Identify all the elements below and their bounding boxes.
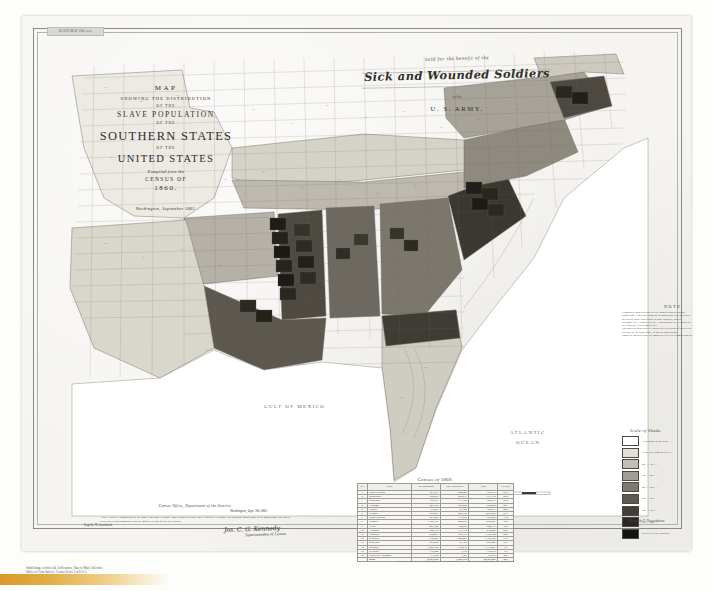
legend-swatch — [622, 482, 639, 492]
col-slave: Slave population — [440, 484, 469, 491]
title-place: Washington, September 1861. — [82, 206, 250, 211]
note-block: NOTE. It should be observed that several… — [622, 304, 713, 337]
screenshot-root: SLAVE MAP 1861 sec. — [0, 0, 713, 591]
title-block: MAP SHOWING THE DISTRIBUTION OF THE SLAV… — [82, 84, 250, 211]
survey-credit: Drawn by Henry S. Graham from the U.S. C… — [336, 560, 576, 563]
legend-label: 40 " " 50 " " — [642, 486, 657, 489]
svg-text:CO.: CO. — [364, 116, 368, 118]
title-year: 1860. — [82, 184, 250, 192]
svg-text:CO.: CO. — [262, 170, 266, 172]
archive-credit: Smith Image Archives & Art Resource, Rar… — [26, 566, 102, 574]
legend-swatch — [622, 448, 639, 458]
map-atlantic-label-2: OCEAN — [516, 440, 540, 445]
svg-text:CO.: CO. — [478, 118, 482, 120]
census-office-line: Census Office, Department of the Interio… — [100, 504, 290, 508]
col-state: States — [367, 484, 412, 491]
legend-row: 90 per cent & upwards — [622, 529, 713, 539]
svg-text:CO.: CO. — [400, 396, 404, 398]
note-body: It should be observed that several count… — [622, 311, 713, 337]
title-of-1: OF THE — [82, 104, 250, 108]
svg-text:CO.: CO. — [452, 200, 456, 202]
title-of-3: OF THE — [82, 146, 250, 150]
note-line: figures of localities that are shown in … — [622, 334, 713, 337]
legend-row: Less than 10 per cent — [622, 436, 713, 446]
census-table-row: 2Mississippi354,699436,631791,33055.2 — [358, 495, 514, 499]
title-map: MAP — [82, 84, 250, 92]
svg-text:CO.: CO. — [180, 248, 184, 250]
legend-row: 40 " " 50 " " — [622, 482, 713, 492]
svg-text:CO.: CO. — [252, 108, 256, 110]
ornate-ribbon: Sick and Wounded Soldiers — [362, 65, 552, 91]
svg-text:CO.: CO. — [406, 288, 410, 290]
ornate-of-the: of the — [362, 94, 552, 99]
legend-row: 50 " " 60 " " — [622, 494, 713, 504]
note-heading: NOTE. — [622, 304, 713, 309]
certification-text: After a careful examination of the above… — [100, 516, 290, 523]
legend-label: Less than 10 per cent — [642, 440, 668, 443]
svg-text:CO.: CO. — [326, 104, 330, 106]
legend-scale-of-shade: Scale of Shade. Less than 10 per cent10 … — [622, 428, 713, 540]
legend-label: 60 " " 70 " " — [642, 509, 657, 512]
svg-text:CO.: CO. — [290, 122, 294, 124]
legend-swatch — [622, 459, 639, 469]
svg-text:CO.: CO. — [330, 280, 334, 282]
svg-text:CO.: CO. — [338, 178, 342, 180]
slide-accent-bar — [0, 574, 172, 585]
col-no: No. — [358, 484, 368, 491]
title-census: CENSUS OF — [82, 176, 250, 182]
legend-swatch — [622, 436, 639, 446]
ornate-header: Sold for the benefit of the Sick and Wou… — [362, 56, 552, 112]
sheet-corner-tag-label: SLAVE MAP 1861 sec. — [48, 28, 103, 35]
legend-row: 30 " " 40 " " — [622, 471, 713, 481]
col-free: Free population — [412, 484, 441, 491]
legend-swatch — [622, 471, 639, 481]
census-table: No. States Free population Slave populat… — [357, 483, 514, 562]
legend-row: 20 " " 30 " " — [622, 459, 713, 469]
title-showing: SHOWING THE DISTRIBUTION — [82, 96, 250, 101]
census-table-title: Census of 1860. — [357, 477, 514, 482]
svg-text:CO.: CO. — [424, 366, 428, 368]
svg-text:CO.: CO. — [414, 184, 418, 186]
title-southern: SOUTHERN STATES — [82, 129, 250, 144]
signature-block: Census Office, Department of the Interio… — [100, 504, 290, 539]
svg-text:CO.: CO. — [376, 192, 380, 194]
svg-text:CO.: CO. — [368, 272, 372, 274]
census-table-row: 16District of Columbia71,8953,18175,0764… — [358, 554, 514, 558]
legend-row: 10 & less than 20 per ct. — [622, 448, 713, 458]
legend-title: Scale of Shade. — [622, 428, 713, 433]
legend-swatch — [622, 506, 639, 516]
col-total: Total — [469, 484, 498, 491]
legend-swatch — [622, 494, 639, 504]
census-table-row: 7North Carolina661,586331,059992,64533.4 — [358, 516, 514, 520]
engraver-credit: Drawn by E. Hergesheimer. — [630, 519, 665, 523]
svg-text:CO.: CO. — [142, 256, 146, 258]
ornate-us-army: U. S. ARMY. — [362, 105, 552, 112]
svg-text:CO.: CO. — [104, 242, 108, 244]
litho-credit: Engd by Th. Leonhardt. — [84, 523, 112, 527]
census-table-row: 1South Carolina301,271402,406703,67757.2 — [358, 491, 514, 495]
map-gulf-label: GULF OF MEXICO — [264, 404, 325, 409]
legend-label: 10 & less than 20 per ct. — [642, 451, 672, 454]
census-table-block: Census of 1860. No. States Free populati… — [357, 477, 514, 562]
legend-label: 50 " " 60 " " — [642, 497, 657, 500]
census-date-line: Washington, Sept. 9th 1861. — [100, 509, 290, 513]
census-table-body: 1South Carolina301,271402,406703,67757.2… — [358, 491, 514, 562]
title-of-2: OF THE — [82, 121, 250, 125]
legend-rows: Less than 10 per cent10 & less than 20 p… — [622, 436, 713, 539]
svg-text:CO.: CO. — [256, 276, 260, 278]
map-sheet: SLAVE MAP 1861 sec. — [22, 16, 691, 551]
title-slave: SLAVE POPULATION — [82, 110, 250, 119]
sheet-corner-tag: SLAVE MAP 1861 sec. — [47, 27, 104, 36]
legend-label: 20 " " 30 " " — [642, 463, 657, 466]
map-atlantic-label: ATLANTIC — [510, 430, 546, 435]
svg-text:CO.: CO. — [440, 126, 444, 128]
svg-text:CO.: CO. — [218, 264, 222, 266]
census-table-header-row: No. States Free population Slave populat… — [358, 484, 514, 491]
legend-row: 60 " " 70 " " — [622, 506, 713, 516]
col-pct: Per cent — [498, 484, 514, 491]
title-compiled: Compiled from the — [82, 169, 250, 174]
svg-text:CO.: CO. — [554, 100, 558, 102]
legend-label: 90 per cent & upwards — [642, 532, 670, 535]
title-united: UNITED STATES — [82, 153, 250, 164]
svg-text:CO.: CO. — [300, 186, 304, 188]
